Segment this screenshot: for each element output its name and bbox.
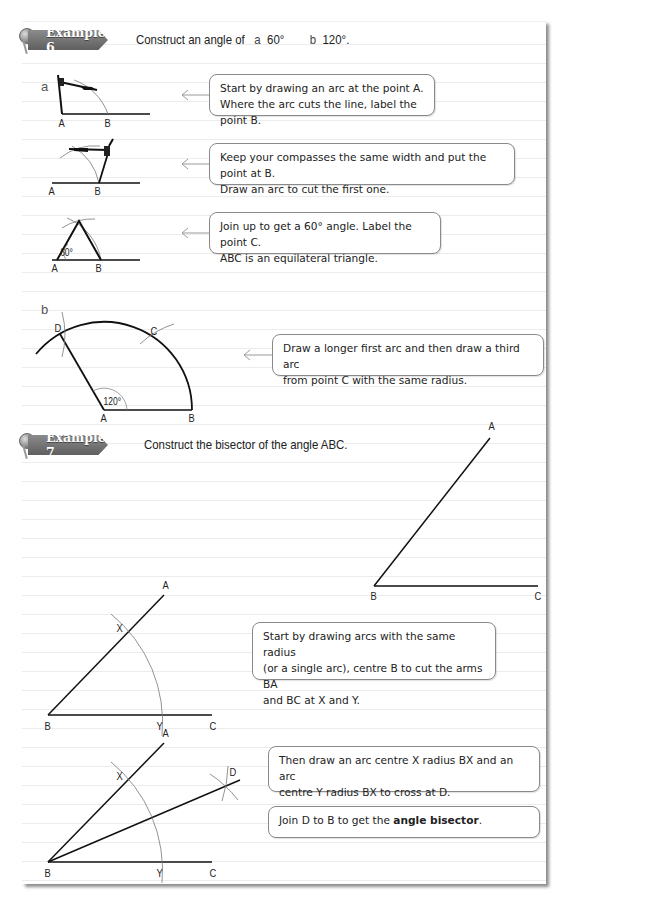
callout-7-step3: Join D to B to get the angle bisector.: [268, 806, 540, 838]
figure-label-c: C: [210, 867, 217, 879]
callout-7-step2: Then draw an arc centre X radius BX and …: [268, 746, 540, 792]
callout-text: Join D to B to get the: [279, 814, 393, 826]
figure-label-b: B: [45, 867, 51, 879]
figure-label-x: X: [117, 770, 123, 782]
callout-line: Then draw an arc centre X radius BX and …: [279, 752, 529, 784]
figure-label-d: D: [230, 766, 237, 778]
figure-label-a: A: [163, 727, 169, 739]
callout-line: centre Y radius BX to cross at D.: [279, 784, 529, 800]
textbook-page: Example 6 Construct an angle of a 60° b …: [22, 21, 546, 884]
angle-bisector-term: angle bisector: [393, 814, 478, 826]
callout-text: .: [479, 814, 482, 826]
figure-label-y: Y: [157, 867, 163, 879]
